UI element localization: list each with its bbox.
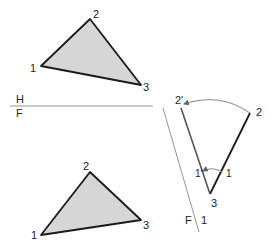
folding-line-f1: [163, 108, 199, 232]
diagram-canvas: 1 2 3 H F 1 2 3 F 1 2 2′ 3 1 1′: [0, 0, 279, 245]
folding-line-f1-1-label: 1: [201, 214, 207, 226]
rotated-edge-3-to-2prime: [181, 108, 210, 194]
aux-point-2-label: 2: [256, 106, 262, 118]
top-vertex-1-label: 1: [30, 62, 36, 74]
aux-point-2prime-label: 2′: [175, 94, 183, 106]
front-vertex-2-label: 2: [83, 160, 89, 172]
folding-line-h-label: H: [16, 93, 24, 105]
aux-point-3-label: 3: [211, 197, 217, 209]
aux-point-1prime-label: 1′: [195, 168, 203, 179]
edge-view-3-to-2: [210, 113, 250, 194]
rotation-arc-2: [184, 100, 250, 113]
top-vertex-3-label: 3: [143, 81, 149, 93]
aux-point-1-label: 1: [226, 168, 232, 179]
folding-line-f-label: F: [16, 107, 23, 119]
folding-line-f1-f-label: F: [185, 214, 192, 226]
front-vertex-3-label: 3: [143, 219, 149, 231]
front-view-triangle: [41, 172, 141, 235]
top-view-triangle: [41, 19, 141, 85]
top-vertex-2-label: 2: [93, 8, 99, 20]
front-vertex-1-label: 1: [31, 229, 37, 241]
rotation-arc-1: [203, 169, 222, 172]
